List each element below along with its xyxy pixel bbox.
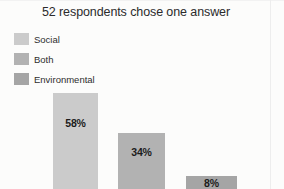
- chart-legend: Social Both Environmental: [14, 29, 95, 89]
- legend-item-both: Both: [14, 49, 95, 69]
- plot-area: 58% 34% 8%: [0, 88, 284, 189]
- legend-swatch-both: [14, 53, 29, 65]
- legend-label-social: Social: [34, 34, 60, 45]
- bar-environmental: 8%: [186, 176, 237, 189]
- chart-title: 52 respondents chose one answer: [0, 5, 272, 19]
- legend-swatch-social: [14, 33, 29, 45]
- bar-value-label-environmental: 8%: [204, 177, 219, 189]
- bar-chart: 52 respondents chose one answer Social B…: [0, 0, 284, 189]
- bar-social: 58%: [53, 93, 98, 189]
- legend-label-both: Both: [34, 54, 54, 65]
- legend-item-social: Social: [14, 29, 95, 49]
- bar-value-label-social: 58%: [65, 117, 85, 129]
- bar-value-label-both: 34%: [131, 146, 151, 158]
- legend-item-environmental: Environmental: [14, 69, 95, 89]
- bar-both: 34%: [118, 133, 165, 189]
- frame-top-border: [0, 0, 284, 1]
- legend-label-environmental: Environmental: [34, 74, 95, 85]
- legend-swatch-environmental: [14, 73, 29, 85]
